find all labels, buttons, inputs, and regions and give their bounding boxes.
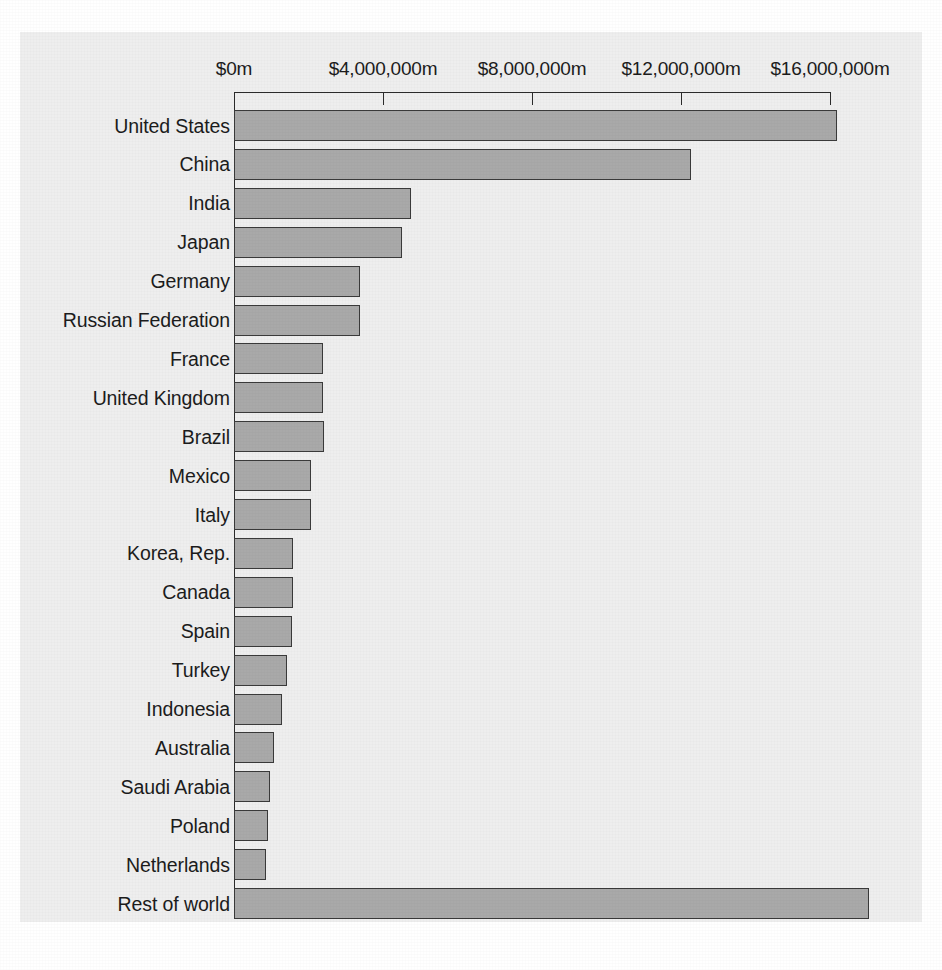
bar[interactable] [234, 188, 411, 219]
category-label: Turkey [172, 659, 230, 682]
bar-row[interactable]: Mexico [0, 460, 942, 491]
bar[interactable] [234, 343, 323, 374]
bar-series: United StatesChinaIndiaJapanGermanyRussi… [0, 0, 942, 970]
bar[interactable] [234, 499, 311, 530]
bar[interactable] [234, 266, 360, 297]
category-label: Rest of world [118, 892, 231, 915]
bar-row[interactable]: India [0, 188, 942, 219]
category-label: Brazil [182, 425, 230, 448]
bar[interactable] [234, 110, 837, 141]
bar-chart-figure: $0m$4,000,000m$8,000,000m$12,000,000m$16… [0, 0, 942, 970]
category-label: Saudi Arabia [121, 775, 230, 798]
bar-row[interactable]: Russian Federation [0, 305, 942, 336]
bar-row[interactable]: Italy [0, 499, 942, 530]
category-label: Italy [195, 503, 230, 526]
bar-row[interactable]: Japan [0, 227, 942, 258]
bar[interactable] [234, 655, 287, 686]
bar[interactable] [234, 771, 270, 802]
bar-row[interactable]: Poland [0, 810, 942, 841]
bar-row[interactable]: Saudi Arabia [0, 771, 942, 802]
bar[interactable] [234, 421, 324, 452]
category-label: Mexico [169, 464, 230, 487]
bar[interactable] [234, 460, 311, 491]
bar-row[interactable]: Brazil [0, 421, 942, 452]
bar-row[interactable]: Indonesia [0, 694, 942, 725]
category-label: India [188, 192, 230, 215]
category-label: Russian Federation [63, 309, 230, 332]
bar[interactable] [234, 810, 268, 841]
bar[interactable] [234, 577, 293, 608]
bar[interactable] [234, 227, 402, 258]
bar[interactable] [234, 538, 293, 569]
bar[interactable] [234, 305, 360, 336]
bar[interactable] [234, 616, 292, 647]
category-label: United Kingdom [93, 386, 230, 409]
category-label: Spain [181, 620, 230, 643]
category-label: Germany [151, 270, 231, 293]
bar-row[interactable]: China [0, 149, 942, 180]
category-label: Netherlands [126, 853, 230, 876]
bar-row[interactable]: United States [0, 110, 942, 141]
caption-strip [24, 944, 914, 968]
category-label: Japan [177, 231, 230, 254]
bar-row[interactable]: United Kingdom [0, 382, 942, 413]
category-label: China [180, 153, 230, 176]
bar[interactable] [234, 732, 274, 763]
bar-row[interactable]: Canada [0, 577, 942, 608]
category-label: France [170, 347, 230, 370]
bar-row[interactable]: Netherlands [0, 849, 942, 880]
category-label: United States [114, 114, 230, 137]
bar-row[interactable]: France [0, 343, 942, 374]
category-label: Australia [155, 736, 230, 759]
bar-row[interactable]: Rest of world [0, 888, 942, 919]
bar[interactable] [234, 888, 869, 919]
category-label: Canada [162, 581, 230, 604]
bar-row[interactable]: Turkey [0, 655, 942, 686]
bar[interactable] [234, 382, 323, 413]
bar[interactable] [234, 694, 282, 725]
category-label: Poland [170, 814, 230, 837]
bar-row[interactable]: Spain [0, 616, 942, 647]
category-label: Korea, Rep. [127, 542, 230, 565]
bar-row[interactable]: Germany [0, 266, 942, 297]
bar-row[interactable]: Australia [0, 732, 942, 763]
bar-row[interactable]: Korea, Rep. [0, 538, 942, 569]
bar[interactable] [234, 149, 691, 180]
bar[interactable] [234, 849, 266, 880]
category-label: Indonesia [146, 698, 230, 721]
